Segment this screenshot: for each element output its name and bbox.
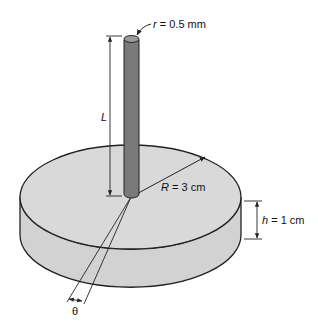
rod-radius-value: = 0.5 mm <box>157 18 206 30</box>
angle-label: θ <box>72 305 78 317</box>
angle-arrow <box>69 299 82 301</box>
disk-rod-diagram: θ R = 3 cm r = 0.5 mm L h = 1 cm <box>0 0 318 326</box>
rod-radius-leader <box>137 24 151 35</box>
rod-radius-label: r = 0.5 mm <box>153 18 206 30</box>
radius-var: R <box>161 181 169 193</box>
rod <box>124 36 139 199</box>
height-dimension <box>244 201 262 239</box>
length-label: L <box>101 111 107 123</box>
rod-top <box>124 36 139 43</box>
radius-value: = 3 cm <box>169 181 205 193</box>
height-value: = 1 cm <box>268 214 304 226</box>
height-label: h = 1 cm <box>262 214 305 226</box>
radius-label: R = 3 cm <box>161 181 205 193</box>
